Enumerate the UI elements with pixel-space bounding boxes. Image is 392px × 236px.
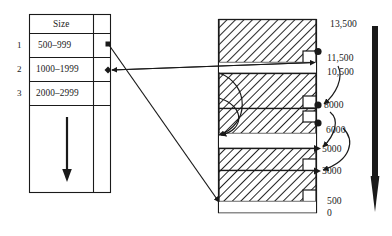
marker-5000-triangle [314,145,321,152]
scale-label-8000: 8000 [324,100,344,110]
row-number-3: 3 [17,89,22,98]
diagram-canvas: long diagonal to bottom-left corner of b… [0,0,392,236]
memory-block-1 [219,20,316,63]
memory-block-4 [219,149,316,171]
table-down-arrow [62,117,72,182]
row-number-1: 1 [17,41,22,50]
table-cell-size-1: 500–999 [38,41,71,50]
marker-8000-circle [314,101,321,108]
marker-6000-circle [314,119,321,126]
table-cell-size-3: 2000–2999 [36,89,79,98]
table-header-size: Size [53,20,69,29]
freelist-curve-right [323,66,350,170]
address-direction-arrow [371,26,380,212]
scale-label-6000: 6000 [326,125,346,135]
scale-label-10500: 10,500 [327,67,354,77]
scale-label-3000: 3000 [322,166,342,176]
marker-11500-circle [314,48,321,55]
table-cell-size-2: 1000–1999 [36,65,79,74]
scale-label-500: 500 [327,196,342,206]
memory-gap-2 [219,134,316,149]
scale-label-5000: 5000 [322,144,342,154]
memory-column [218,19,317,213]
marker-3000-triangle [314,168,321,175]
row-number-2: 2 [17,65,22,74]
memory-block-5 [219,171,316,202]
memory-block-2 [219,74,316,109]
memory-gap-3 [219,202,316,213]
scale-label-0: 0 [327,208,332,218]
scale-label-13500: 13,500 [330,19,357,29]
scale-label-11500: 11,500 [327,53,354,63]
